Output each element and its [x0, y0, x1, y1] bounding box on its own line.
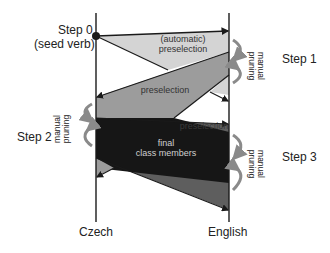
manual-pruning-step3: manual pruning: [247, 147, 265, 181]
step1-label: Step 1: [282, 53, 317, 66]
manual-pruning-step2: manual pruning: [53, 112, 71, 146]
step2-label: Step 2: [17, 131, 52, 144]
final-class-members-label: final class members: [130, 138, 202, 158]
step0-title: Step 0: [58, 24, 93, 37]
step3-label: Step 3: [282, 151, 317, 164]
czech-preselection-label: preselection: [130, 85, 200, 95]
manual-pruning-step1: manual pruning: [247, 49, 265, 83]
auto-preselection-label: (automatic) preselection: [150, 34, 216, 54]
english-preselection-label: preselection: [176, 121, 232, 131]
czech-label: Czech: [79, 226, 113, 239]
english-label: English: [208, 226, 247, 239]
step0-subtitle: (seed verb): [34, 38, 95, 51]
